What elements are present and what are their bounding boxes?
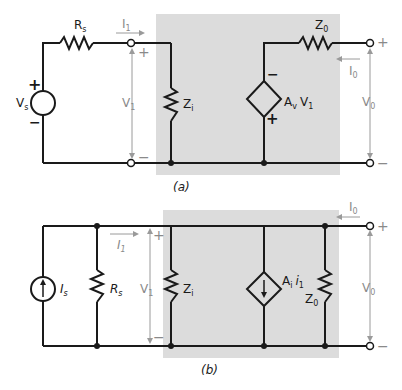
output-terminal-minus-a — [367, 160, 374, 167]
output-terminal-plus-b — [367, 223, 374, 230]
svg-text:+: + — [377, 218, 389, 234]
circuit-b — [31, 210, 374, 358]
svg-text:V0: V0 — [362, 281, 375, 297]
svg-text:+: + — [377, 34, 389, 50]
svg-text:+: + — [28, 75, 41, 94]
input-terminal-minus-a — [128, 160, 135, 167]
arrow-i1-b — [133, 231, 139, 237]
circuit-a — [31, 14, 374, 175]
caption-b: (b) — [201, 363, 218, 377]
output-terminal-minus-b — [367, 343, 374, 350]
svg-text:I0: I0 — [349, 200, 358, 216]
svg-text:V0: V0 — [362, 95, 375, 111]
svg-text:Rs: Rs — [110, 282, 123, 298]
svg-text:−: − — [29, 114, 41, 130]
resistor-rs-a — [60, 37, 93, 49]
svg-text:−: − — [377, 338, 389, 354]
amplifier-equivalent-circuits: Rs Vs + − I1 + V1 − Zi − + AvV1 Z0 I0 V0… — [0, 0, 402, 390]
svg-text:Is: Is — [60, 282, 68, 298]
svg-text:−: − — [267, 66, 279, 82]
svg-text:I1: I1 — [117, 238, 126, 254]
caption-a: (a) — [173, 180, 190, 194]
svg-text:+: + — [266, 110, 279, 128]
svg-text:V1: V1 — [122, 96, 135, 112]
svg-text:+: + — [138, 44, 150, 60]
svg-text:−: − — [153, 329, 165, 345]
resistor-rs-b — [91, 270, 103, 302]
svg-text:V1: V1 — [140, 282, 153, 298]
voltage-source-icon — [31, 91, 55, 115]
svg-text:I1: I1 — [122, 17, 131, 33]
svg-text:Rs: Rs — [74, 18, 87, 34]
svg-text:+: + — [153, 227, 165, 243]
svg-text:I0: I0 — [349, 64, 358, 80]
output-terminal-plus-a — [367, 40, 374, 47]
arrow-i1-a — [139, 30, 145, 36]
svg-text:−: − — [377, 155, 389, 171]
svg-text:Vs: Vs — [16, 96, 28, 112]
input-terminal-plus-a — [128, 40, 135, 47]
svg-text:−: − — [138, 149, 150, 165]
